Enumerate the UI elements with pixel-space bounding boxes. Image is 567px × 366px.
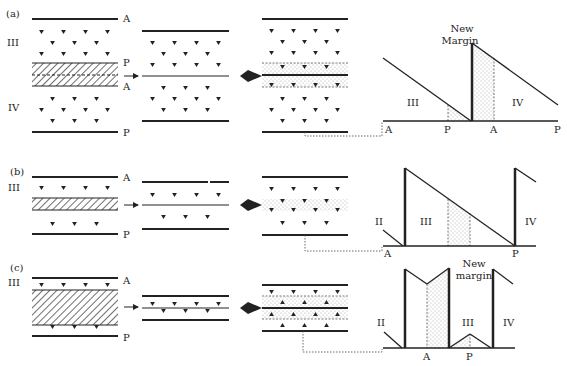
big-arrow [240,70,262,82]
age-profile-graph: II III IV A P [375,168,537,259]
zone-iii-label: III [420,216,432,227]
axis-label: A [489,124,498,135]
big-arrow [240,199,262,211]
label-p: P [123,57,130,68]
panel-label: (a) [6,8,20,19]
triangle-pattern [39,97,110,123]
stage-initial: A III P [8,275,131,343]
panel-c: (c) A III P [8,258,515,362]
stage-new-margin [262,177,382,251]
age-profile-graph: New margin II III IV A P [377,258,515,362]
label-a-top: A [122,172,131,183]
axis-label: A [422,351,431,362]
new-margin-label: margin [456,270,493,281]
stage-initial: A III P [8,172,131,240]
zone-iv-label: IV [512,97,524,108]
zone-ii-label: II [377,317,385,328]
zone-iv-label: IV [525,216,537,227]
axis-label: A [383,248,392,259]
connector-line [305,122,382,136]
label-a-top: A [122,13,131,24]
label-p-bottom: P [123,229,130,240]
big-arrow [240,302,262,314]
label-p-bottom: P [123,127,130,138]
zone-iii-label: III [8,182,20,193]
axis-label: P [444,124,451,135]
panel-b: (b) A III P [8,166,537,259]
zone-iii-label: III [407,97,419,108]
zone-iii-label: III [7,37,19,48]
stage-new-margin [262,285,382,352]
zone-iii-label: III [8,277,20,288]
ridge-jump-diagram: (a) A III P A IV P [0,0,567,366]
axis-label: P [466,351,473,362]
stage-initial: A III P A IV P [7,13,131,138]
triangle-pattern [39,30,110,56]
label-a-top: A [122,275,131,286]
connector-line [305,235,382,251]
stage-new-margin [262,19,382,136]
zone-ii-label: II [375,216,383,227]
new-margin-label: New [450,23,474,34]
zone-iii-label: III [462,317,474,328]
panel-label: (c) [10,262,24,273]
label-p-bottom: P [123,332,130,343]
new-margin-label: Margin [441,35,479,46]
axis-label: A [384,124,393,135]
stage-rifted [142,31,229,121]
age-profile-graph: New Margin III IV A P A P [383,23,561,135]
zone-iv-label: IV [8,102,20,113]
zone-iv-label: IV [503,317,515,328]
connector-line [303,331,382,352]
hatched-crust [32,290,118,325]
label-a: A [122,81,131,92]
stage-rifted [142,296,229,320]
axis-label: P [512,248,519,259]
stage-rifted [142,182,229,229]
panel-label: (b) [10,166,24,177]
panel-a: (a) A III P A IV P [6,8,561,138]
hatched-crust [32,198,118,210]
axis-label: P [554,124,561,135]
new-margin-label: New [462,258,486,269]
